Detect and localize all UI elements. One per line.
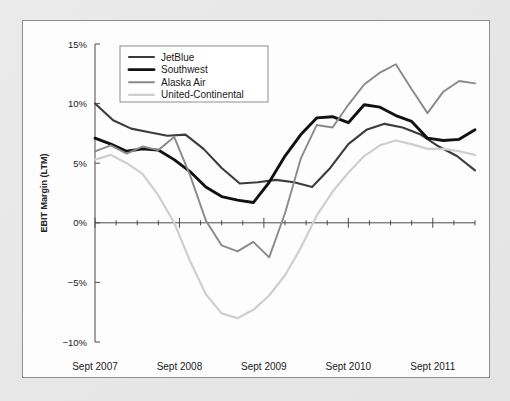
y-tick-marks [95, 44, 100, 342]
legend-label: United-Continental [161, 89, 244, 100]
x-tick-label: Sept 2007 [72, 361, 118, 372]
y-tick-label: 0% [73, 217, 87, 228]
chart-legend: JetBlueSouthwestAlaska AirUnited-Contine… [120, 46, 268, 102]
y-tick-label: 5% [73, 158, 87, 169]
chart-panel: 15%10%5%0%−5%−10% EBIT Margin (LTM) Sept… [22, 20, 490, 378]
ebit-margin-line-chart: 15%10%5%0%−5%−10% EBIT Margin (LTM) Sept… [23, 21, 491, 379]
legend-label: Southwest [161, 64, 208, 75]
x-tick-label: Sept 2008 [157, 361, 203, 372]
series-line [95, 141, 475, 319]
x-tick-label: Sept 2011 [410, 361, 455, 372]
y-tick-labels: 15%10%5%0%−5%−10% [62, 39, 87, 348]
y-tick-label: 15% [68, 39, 88, 50]
y-axis-title: EBIT Margin (LTM) [39, 154, 49, 233]
legend-label: Alaska Air [161, 77, 206, 88]
y-tick-label: −5% [68, 277, 88, 288]
legend-label: JetBlue [161, 52, 195, 63]
x-axis-group: Sept 2007Sept 2008Sept 2009Sept 2010Sept… [72, 218, 475, 372]
y-tick-label: −10% [62, 337, 87, 348]
x-tick-label: Sept 2010 [326, 361, 372, 372]
x-tick-label: Sept 2009 [241, 361, 287, 372]
x-tick-labels: Sept 2007Sept 2008Sept 2009Sept 2010Sept… [72, 361, 455, 372]
page-root: 15%10%5%0%−5%−10% EBIT Margin (LTM) Sept… [0, 0, 510, 401]
y-axis-group: 15%10%5%0%−5%−10% EBIT Margin (LTM) [39, 39, 100, 348]
y-tick-label: 10% [68, 98, 88, 109]
